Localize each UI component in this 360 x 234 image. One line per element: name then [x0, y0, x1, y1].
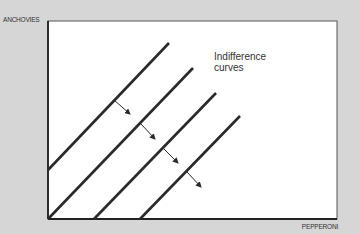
indifference-curves-diagram: ANCHOVIES PEPPERONI Indifference curves — [0, 0, 360, 234]
plot-area — [48, 21, 337, 219]
diagram-canvas — [0, 0, 360, 234]
annotation-line-1: Indifference — [214, 51, 266, 62]
x-axis-label: PEPPERONI — [302, 223, 338, 230]
annotation-line-2: curves — [214, 62, 266, 73]
y-axis-label: ANCHOVIES — [3, 16, 40, 23]
curves-annotation: Indifference curves — [214, 51, 266, 73]
